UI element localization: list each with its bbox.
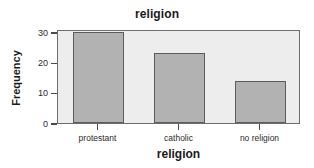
y-tick-mark (51, 63, 57, 65)
bar-chart: religion Frequency 0102030 protestantcat… (0, 0, 314, 168)
x-tick-mark (178, 124, 180, 130)
y-tick-mark (51, 123, 57, 125)
y-tick-label: 10 (24, 89, 48, 98)
x-tick-mark (259, 124, 261, 130)
y-tick-label: 20 (24, 59, 48, 68)
bar (73, 32, 123, 123)
bar (154, 53, 204, 123)
y-axis-title: Frequency (10, 30, 24, 126)
x-tick-label: no religion (215, 133, 305, 143)
x-tick-mark (97, 124, 99, 130)
x-tick-label: catholic (134, 133, 224, 143)
x-tick-label: protestant (53, 133, 143, 143)
plot-frame (57, 30, 300, 124)
y-tick-mark (51, 93, 57, 95)
plot-area (58, 31, 299, 123)
chart-title: religion (0, 7, 314, 21)
y-tick-label: 0 (24, 120, 48, 129)
bar (235, 81, 285, 123)
y-tick-mark (51, 32, 57, 34)
y-tick-label: 30 (24, 29, 48, 38)
x-axis-title: religion (57, 147, 300, 161)
